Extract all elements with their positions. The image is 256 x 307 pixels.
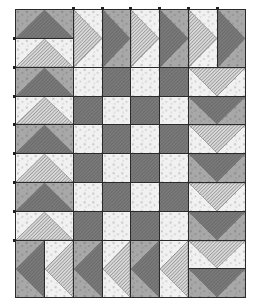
goose-block-left (15, 67, 74, 97)
checker-square (102, 153, 131, 183)
checker-square (159, 96, 189, 125)
seam-mark (13, 37, 16, 40)
quilt-layout (0, 0, 256, 307)
goose-block-left (15, 9, 74, 39)
checker-square (159, 124, 189, 154)
goose-block-right (188, 268, 246, 298)
checker-square (73, 67, 103, 97)
goose-block-left (15, 211, 74, 241)
goose-block-top (159, 9, 189, 68)
goose-block-top (130, 9, 160, 68)
goose-block-top (217, 9, 246, 68)
checker-square (73, 153, 103, 183)
checker-square (159, 67, 189, 97)
goose-block-bottom (73, 240, 103, 298)
checker-square (130, 96, 160, 125)
checker-square (159, 211, 189, 241)
checker-square (102, 211, 131, 241)
seam-mark (101, 7, 104, 10)
goose-block-left (15, 124, 74, 154)
seam-mark (158, 7, 161, 10)
seam-mark (13, 66, 16, 69)
goose-block-right (188, 211, 246, 241)
checker-square (130, 211, 160, 241)
seam-mark (13, 123, 16, 126)
checker-square (102, 67, 131, 97)
seam-mark (13, 239, 16, 242)
goose-block-bottom (102, 240, 131, 298)
goose-block-top (188, 9, 218, 68)
seam-mark (13, 181, 16, 184)
seam-mark (13, 95, 16, 98)
checker-square (73, 182, 103, 212)
checker-square (159, 182, 189, 212)
goose-block-right (188, 67, 246, 97)
seam-mark (72, 7, 75, 10)
seam-mark (129, 7, 132, 10)
checker-square (130, 67, 160, 97)
seam-mark (13, 152, 16, 155)
goose-block-left (15, 38, 74, 68)
checker-square (102, 96, 131, 125)
goose-block-right (188, 153, 246, 183)
checker-square (130, 182, 160, 212)
goose-block-right (188, 240, 246, 269)
checker-square (102, 124, 131, 154)
checker-square (102, 182, 131, 212)
goose-block-left (15, 153, 74, 183)
goose-block-bottom (15, 240, 45, 298)
goose-block-right (188, 182, 246, 212)
goose-block-right (188, 124, 246, 154)
seam-mark (216, 7, 219, 10)
goose-block-top (102, 9, 131, 68)
goose-block-top (73, 9, 103, 68)
checker-square (73, 124, 103, 154)
checker-square (130, 124, 160, 154)
checker-square (159, 153, 189, 183)
goose-block-left (15, 96, 74, 125)
checker-square (73, 96, 103, 125)
goose-block-bottom (130, 240, 160, 298)
seam-mark (13, 210, 16, 213)
goose-block-bottom (44, 240, 74, 298)
checker-square (130, 153, 160, 183)
goose-block-right (188, 96, 246, 125)
goose-block-bottom (159, 240, 189, 298)
seam-mark (187, 7, 190, 10)
goose-block-left (15, 182, 74, 212)
checker-square (73, 211, 103, 241)
